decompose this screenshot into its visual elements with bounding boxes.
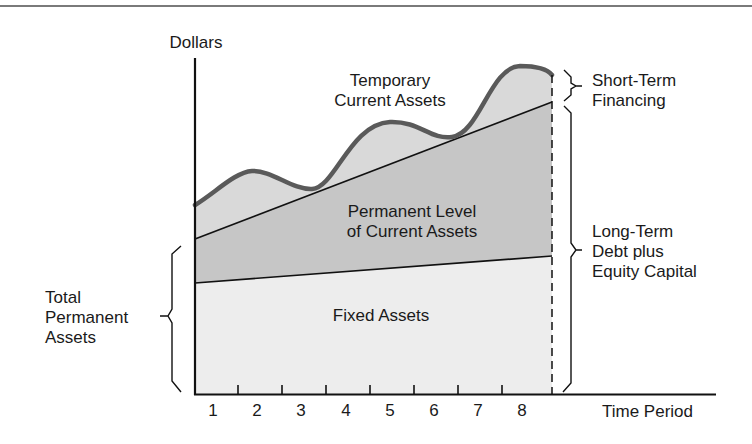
x-tick-label: 8 xyxy=(517,401,526,421)
x-tick-label: 6 xyxy=(429,401,438,421)
temporary-label-line1: Temporary xyxy=(334,71,446,91)
long-term-brace xyxy=(563,106,582,392)
temporary-label-line2: Current Assets xyxy=(334,91,446,111)
permanent-current-assets-label: Permanent Level of Current Assets xyxy=(347,202,477,242)
total-permanent-line1: Total xyxy=(45,288,128,308)
x-tick-label: 5 xyxy=(385,401,394,421)
total-permanent-line3: Assets xyxy=(45,328,128,348)
total-permanent-assets-label: Total Permanent Assets xyxy=(45,288,128,348)
temporary-assets-label: Temporary Current Assets xyxy=(334,71,446,111)
x-axis-label: Time Period xyxy=(602,402,693,422)
fixed-assets-label: Fixed Assets xyxy=(333,306,429,326)
permanent-label-line1: Permanent Level xyxy=(347,202,477,222)
short-term-brace xyxy=(564,70,582,101)
short-term-financing-label: Short-Term Financing xyxy=(592,71,676,111)
y-axis-label: Dollars xyxy=(170,33,223,53)
total-permanent-brace xyxy=(160,246,181,392)
x-tick-label: 7 xyxy=(473,401,482,421)
long-term-line2: Debt plus xyxy=(592,242,697,262)
x-tick-label: 3 xyxy=(296,401,305,421)
total-permanent-line2: Permanent xyxy=(45,308,128,328)
short-term-line1: Short-Term xyxy=(592,71,676,91)
long-term-financing-label: Long-Term Debt plus Equity Capital xyxy=(592,222,697,282)
permanent-label-line2: of Current Assets xyxy=(347,222,477,242)
x-tick-label: 2 xyxy=(252,401,261,421)
long-term-line3: Equity Capital xyxy=(592,262,697,282)
x-tick-label: 4 xyxy=(341,401,350,421)
x-tick-label: 1 xyxy=(208,401,217,421)
short-term-line2: Financing xyxy=(592,91,676,111)
long-term-line1: Long-Term xyxy=(592,222,697,242)
